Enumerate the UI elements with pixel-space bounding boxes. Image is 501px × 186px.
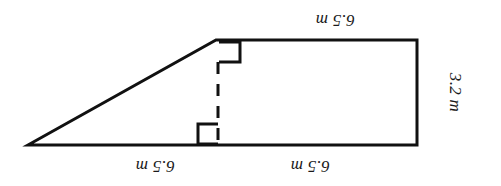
dimension-label-right-height: 3.2 m (447, 53, 464, 133)
geometry-svg (0, 0, 501, 186)
dimension-label-bottom-right: 6.5 m (270, 158, 350, 175)
dimension-label-top: 6.5 m (295, 12, 375, 29)
right-angle-marker-bottom-icon (198, 124, 218, 144)
dimension-label-bottom-left: 6.5 m (115, 158, 195, 175)
right-angle-marker-top-icon (219, 42, 240, 62)
geometry-figure: 6.5 m 6.5 m 6.5 m 3.2 m (0, 0, 501, 186)
trapezoid-outline (28, 40, 417, 145)
